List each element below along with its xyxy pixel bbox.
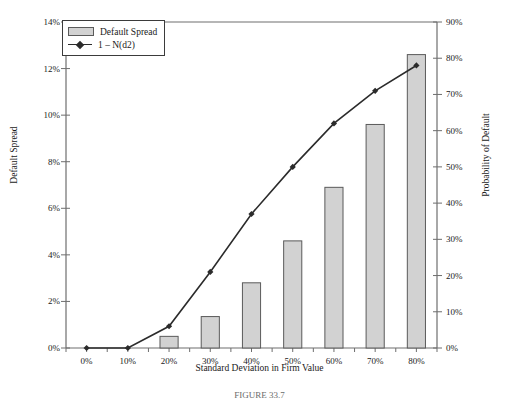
bar-default-spread	[325, 187, 343, 348]
y-axis-right-tick-label: 50%	[446, 162, 492, 172]
bar-default-spread	[366, 124, 384, 348]
chart-legend: Default Spread 1 – N(d2)	[62, 20, 165, 56]
y-axis-right-tick-label: 0%	[446, 343, 492, 353]
y-axis-right-tick-label: 10%	[446, 307, 492, 317]
legend-bar-swatch-icon	[68, 27, 94, 36]
y-axis-right-tick-label: 80%	[446, 53, 492, 63]
chart-plot-area	[0, 0, 519, 399]
legend-item-probability: 1 – N(d2)	[68, 38, 157, 51]
x-axis-tick-label: 50%	[284, 356, 301, 366]
bar-default-spread	[201, 317, 219, 348]
x-axis-tick-label: 70%	[367, 356, 384, 366]
bar-default-spread	[284, 241, 302, 348]
legend-label-default-spread: Default Spread	[100, 27, 157, 37]
bar-default-spread	[242, 283, 260, 348]
y-axis-right-tick-label: 40%	[446, 198, 492, 208]
x-axis-tick-label: 0%	[81, 356, 93, 366]
y-axis-left-tick-label: 0%	[14, 343, 60, 353]
y-axis-left-tick-label: 10%	[14, 110, 60, 120]
line-marker-diamond	[84, 345, 90, 351]
x-axis-tick-label: 30%	[202, 356, 219, 366]
y-axis-left-tick-label: 4%	[14, 250, 60, 260]
y-axis-left-tick-label: 12%	[14, 64, 60, 74]
x-axis-tick-label: 20%	[161, 356, 178, 366]
legend-line-diamond-icon	[68, 40, 92, 49]
line-marker-diamond	[125, 345, 131, 351]
chart-figure: Default Spread Probability of Default St…	[0, 0, 519, 399]
x-axis-tick-label: 10%	[120, 356, 137, 366]
y-axis-left-tick-label: 2%	[14, 296, 60, 306]
legend-label-probability: 1 – N(d2)	[98, 40, 135, 50]
figure-caption: FIGURE 33.7	[0, 390, 519, 399]
y-axis-right-tick-label: 70%	[446, 89, 492, 99]
y-axis-right-label: Probability of Default	[481, 95, 491, 215]
y-axis-right-tick-label: 60%	[446, 126, 492, 136]
y-axis-left-tick-label: 6%	[14, 203, 60, 213]
y-axis-left-tick-label: 14%	[14, 17, 60, 27]
legend-item-default-spread: Default Spread	[68, 25, 157, 38]
x-axis-tick-label: 80%	[408, 356, 425, 366]
bar-default-spread	[407, 55, 425, 348]
y-axis-left-tick-label: 8%	[14, 157, 60, 167]
y-axis-right-tick-label: 90%	[446, 17, 492, 27]
x-axis-tick-label: 40%	[243, 356, 260, 366]
y-axis-right-tick-label: 20%	[446, 271, 492, 281]
y-axis-right-tick-label: 30%	[446, 234, 492, 244]
bar-default-spread	[160, 336, 178, 348]
x-axis-tick-label: 60%	[326, 356, 343, 366]
